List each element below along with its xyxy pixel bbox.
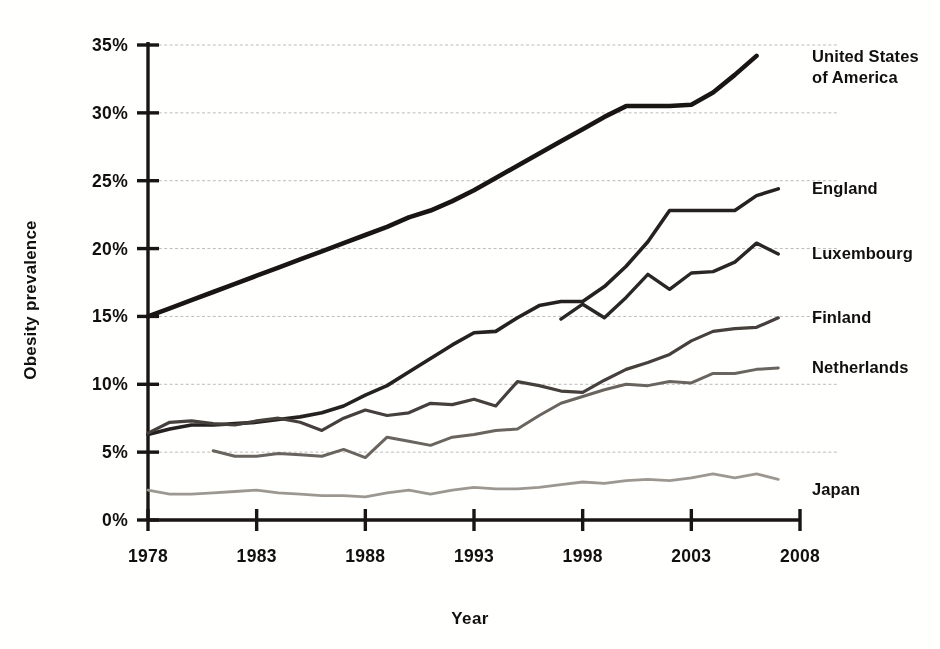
x-tick-label: 1988 [345,546,385,566]
x-tick-label: 2003 [671,546,711,566]
series-label-japan: Japan [812,480,860,498]
y-tick-label: 5% [102,442,128,462]
series-line-luxembourg [561,243,778,319]
series-line-japan [148,474,778,497]
series-labels-group: United Statesof AmericaEnglandLuxembourg… [812,47,919,498]
y-tick-label: 10% [92,374,128,394]
x-tick-label: 1983 [237,546,277,566]
series-line-england [148,189,778,435]
series-label-finland: Finland [812,308,871,326]
series-label-netherlands: Netherlands [812,358,908,376]
y-tick-label: 30% [92,103,128,123]
x-tick-label: 1998 [563,546,603,566]
series-label-luxembourg: Luxembourg [812,244,913,262]
chart-canvas: 0%5%10%15%20%25%30%35% 19781983198819931… [0,0,940,649]
y-tick-label: 20% [92,239,128,259]
y-tick-label: 0% [102,510,128,530]
y-tick-label: 15% [92,306,128,326]
x-tick-label: 1978 [128,546,168,566]
obesity-prevalence-chart: 0%5%10%15%20%25%30%35% 19781983198819931… [0,0,940,649]
series-line-united-states-of-america [148,56,757,317]
data-series-group [148,56,778,497]
y-tick-labels: 0%5%10%15%20%25%30%35% [92,35,128,530]
series-line-finland [148,318,778,433]
gridlines [148,45,838,452]
x-tick-label: 2008 [780,546,820,566]
series-line-netherlands [213,368,778,458]
y-axis-title: Obesity prevalence [21,220,40,380]
x-tick-labels: 1978198319881993199820032008 [128,546,820,566]
x-axis-title: Year [451,609,489,628]
y-tick-label: 25% [92,171,128,191]
y-tick-label: 35% [92,35,128,55]
x-tick-label: 1993 [454,546,494,566]
series-label-united-states-of-america: United Statesof America [812,47,919,86]
series-label-england: England [812,179,878,197]
